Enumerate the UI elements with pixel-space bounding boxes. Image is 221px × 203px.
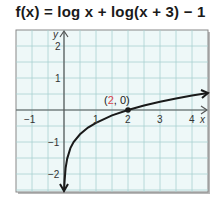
x-tick-label: 2 — [125, 114, 131, 125]
x-axis-label: x — [199, 114, 206, 125]
x-tick-label: 4 — [189, 114, 195, 125]
x-tick-label: 1 — [93, 114, 99, 125]
x-tick-label: −1 — [24, 114, 36, 125]
y-tick-label: 2 — [55, 41, 61, 52]
y-axis-label: y — [52, 29, 59, 40]
y-tick-label: −2 — [48, 169, 60, 180]
y-tick-label: 1 — [55, 73, 61, 84]
point-label: (2, 0) — [104, 94, 130, 106]
y-tick-label: −1 — [48, 137, 60, 148]
point-marker — [125, 107, 131, 113]
chart-area: (2, 0) y x −1 1 2 3 4 2 1 −1 −2 — [0, 0, 221, 203]
x-tick-label: 3 — [157, 114, 163, 125]
